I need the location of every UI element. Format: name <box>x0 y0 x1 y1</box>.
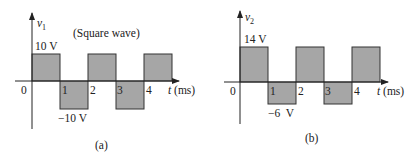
origin-label-a: 0 <box>21 84 27 96</box>
panel-b: v2 14 V 0 1 2 3 4 t (ms) −6 V (b) <box>224 11 404 145</box>
tick-3-b: 3 <box>325 85 331 97</box>
high-label-b: 14 V <box>244 33 267 45</box>
tick-2-b: 2 <box>298 85 304 97</box>
tick-1-a: 1 <box>62 84 68 96</box>
xlabel-b: t (ms) <box>377 85 404 98</box>
panel-a: v1 (Square wave) 10 V 0 1 2 3 4 t (ms) −… <box>15 13 195 152</box>
high-label-a: 10 V <box>35 40 58 52</box>
xlabel-a: t (ms) <box>168 84 195 97</box>
ylabel-a: v1 <box>37 17 46 32</box>
caption-a: (a) <box>95 139 108 152</box>
origin-label-b: 0 <box>230 85 236 97</box>
caption-b: (b) <box>305 132 319 145</box>
tick-4-a: 4 <box>146 84 152 96</box>
tick-4-b: 4 <box>354 85 360 97</box>
tick-1-b: 1 <box>270 85 276 97</box>
waveform-figure: v1 (Square wave) 10 V 0 1 2 3 4 t (ms) −… <box>0 0 413 159</box>
ylabel-b: v2 <box>245 11 254 26</box>
low-label-b: −6 V <box>268 107 295 119</box>
title-a: (Square wave) <box>73 27 140 40</box>
tick-3-a: 3 <box>117 84 123 96</box>
low-label-a: −10 V <box>58 112 88 124</box>
tick-2-a: 2 <box>90 84 96 96</box>
